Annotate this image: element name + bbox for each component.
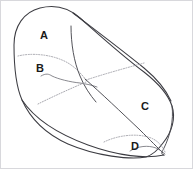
dotted-fan-lower-path — [38, 82, 86, 104]
diagonal-main-divider-path — [85, 79, 163, 153]
label-region-d: D — [131, 140, 139, 152]
label-region-b: B — [36, 62, 44, 74]
label-region-c: C — [141, 100, 149, 112]
image-border — [1, 1, 193, 169]
top-ridge-path — [73, 13, 171, 101]
diagram-frame: A B C D — [0, 0, 193, 169]
region-b-squiggle-path — [41, 74, 97, 87]
vertical-divider-path — [71, 26, 96, 102]
region-diagram: A B C D — [0, 0, 193, 169]
label-region-a: A — [40, 29, 48, 41]
right-tip-inner-path — [162, 106, 173, 155]
